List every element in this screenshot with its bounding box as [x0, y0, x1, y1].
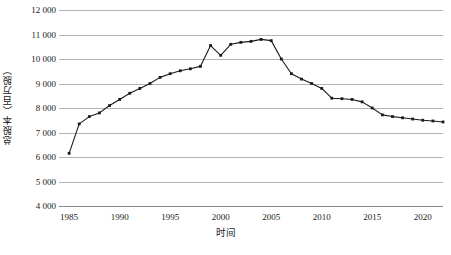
- data-point-marker: [431, 120, 434, 123]
- data-point-marker: [300, 78, 303, 81]
- data-point-marker: [128, 92, 131, 95]
- plot-area: [59, 10, 443, 206]
- x-axis-title-text: 时间: [216, 228, 236, 238]
- data-point-marker: [442, 121, 445, 124]
- data-point-marker: [320, 87, 323, 90]
- x-axis-tick-labels: 19851990199520002005201020152020: [59, 209, 443, 225]
- x-tick-label: 1985: [60, 213, 78, 222]
- data-point-marker: [219, 54, 222, 57]
- x-tick-label: 1990: [111, 213, 129, 222]
- y-axis-tick-labels: 4 0005 0006 0007 0008 0009 00010 00011 0…: [16, 0, 56, 210]
- x-tick-label: 2015: [363, 213, 381, 222]
- data-point-marker: [341, 97, 344, 100]
- data-point-marker: [68, 152, 71, 155]
- data-point-marker: [411, 118, 414, 121]
- y-tick-label: 9 000: [36, 79, 56, 88]
- y-axis-title-text: 总股本（百万股）: [4, 65, 14, 145]
- series-line: [69, 39, 443, 153]
- x-tick-label: 2000: [212, 213, 230, 222]
- data-point-marker: [260, 38, 263, 41]
- data-point-marker: [239, 41, 242, 44]
- data-point-marker: [199, 65, 202, 68]
- gridline: [59, 206, 443, 207]
- x-tick-label: 1995: [161, 213, 179, 222]
- x-tick-label: 2005: [262, 213, 280, 222]
- data-point-marker: [149, 82, 152, 85]
- data-point-marker: [189, 67, 192, 70]
- x-tick-label: 2020: [414, 213, 432, 222]
- data-point-marker: [159, 76, 162, 79]
- data-point-marker: [78, 123, 81, 126]
- y-tick-label: 10 000: [31, 55, 56, 64]
- y-tick-label: 4 000: [36, 202, 56, 211]
- data-point-marker: [351, 98, 354, 101]
- data-point-marker: [88, 115, 91, 118]
- data-point-marker: [330, 97, 333, 100]
- line-chart: 总股本（百万股） 4 0005 0006 0007 0008 0009 0001…: [0, 0, 451, 255]
- data-point-marker: [138, 87, 141, 90]
- data-point-marker: [381, 113, 384, 116]
- y-tick-label: 11 000: [32, 30, 56, 39]
- data-point-marker: [391, 115, 394, 118]
- x-tick-label: 2010: [313, 213, 331, 222]
- data-point-marker: [169, 72, 172, 75]
- data-point-marker: [179, 69, 182, 72]
- data-point-marker: [401, 116, 404, 119]
- data-point-marker: [270, 39, 273, 42]
- data-point-marker: [280, 58, 283, 61]
- y-tick-label: 5 000: [36, 177, 56, 186]
- data-point-marker: [421, 119, 424, 122]
- data-point-marker: [250, 40, 253, 43]
- data-point-marker: [98, 112, 101, 115]
- y-tick-label: 6 000: [36, 153, 56, 162]
- data-point-marker: [310, 82, 313, 85]
- data-point-marker: [361, 100, 364, 103]
- data-point-marker: [371, 107, 374, 110]
- data-point-marker: [290, 72, 293, 75]
- data-series: [59, 10, 443, 206]
- y-tick-label: 12 000: [31, 6, 56, 15]
- data-point-marker: [118, 98, 121, 101]
- data-point-marker: [108, 104, 111, 107]
- data-point-marker: [229, 43, 232, 46]
- x-axis-title: 时间: [0, 229, 451, 239]
- y-tick-label: 8 000: [36, 104, 56, 113]
- data-point-marker: [209, 44, 212, 47]
- y-tick-label: 7 000: [36, 128, 56, 137]
